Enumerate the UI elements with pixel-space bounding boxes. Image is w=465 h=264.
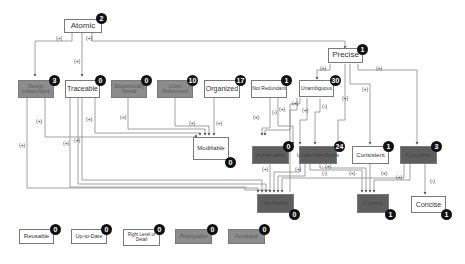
count-badge: 0 <box>207 224 218 235</box>
edge-sign: (+) <box>381 170 387 176</box>
node-label: Concise <box>416 201 441 208</box>
count-badge: 10 <box>187 75 198 86</box>
edge-sign: (+) <box>216 120 222 126</box>
edge-sign: (+) <box>189 120 195 126</box>
node-label: Correct <box>363 200 383 206</box>
count-badge: 24 <box>334 141 345 152</box>
node-label: Prototypable <box>179 234 207 239</box>
node-label: Right Level of Detail <box>124 233 159 242</box>
count-badge: 0 <box>50 224 61 235</box>
node-label: Modifiable <box>197 145 224 151</box>
edge-sign: (+) <box>292 100 298 106</box>
count-badge: 0 <box>154 224 165 235</box>
edge-sign: (-) <box>322 103 327 109</box>
node-label: Consistent <box>356 152 384 158</box>
node-label: Not Redundant <box>252 86 286 91</box>
quality-attribute-diagram: (+) (+) (+) (+) (+) (+) (+) (+) (+) (+) … <box>0 0 465 264</box>
node-label: Unambiguous <box>301 86 332 91</box>
node-understandable[interactable]: Understandable <box>299 146 337 164</box>
count-badge: 17 <box>235 75 246 86</box>
edge-sign: (+) <box>56 35 62 41</box>
node-label: Cross Referenced <box>158 84 192 95</box>
count-badge: 0 <box>225 157 236 168</box>
count-badge: 1 <box>281 75 292 86</box>
count-badge: 0 <box>141 75 152 86</box>
node-verifiable[interactable]: Verifiable <box>257 194 294 213</box>
node-label: Electronically Stored <box>112 84 146 95</box>
count-badge: 1 <box>357 44 368 55</box>
edge-sign: (+) <box>376 65 382 71</box>
edge-sign: (+) <box>349 170 355 176</box>
edge-sign: (+) <box>120 114 126 120</box>
edge-sign: (+) <box>302 107 308 113</box>
node-unambiguous[interactable]: Unambiguous <box>299 80 334 97</box>
node-label: Organized <box>206 85 238 92</box>
edge-sign: (+) <box>362 86 368 92</box>
node-concise[interactable]: Concise <box>411 196 446 213</box>
node-correct[interactable]: Correct <box>357 194 389 213</box>
node-label: Atomic <box>71 22 95 30</box>
edge-sign: (-) <box>430 178 435 184</box>
count-badge: 0 <box>95 75 106 86</box>
count-badge: 0 <box>259 224 270 235</box>
edge-sign: (-) <box>322 170 327 176</box>
count-badge: 1 <box>441 209 452 220</box>
node-reusable[interactable]: Reusable <box>19 229 54 244</box>
edge-sign: (+) <box>74 137 80 143</box>
edge-sign: (+) <box>74 58 80 64</box>
node-label: Up-to-Date <box>76 234 103 240</box>
count-badge: 1 <box>385 209 396 220</box>
edge-sign: (+) <box>342 95 348 101</box>
node-label: Reusable <box>24 233 49 239</box>
node-label: Traceable <box>67 85 98 92</box>
edge-sign: (+) <box>262 166 268 172</box>
node-label: Verifiable <box>263 200 288 206</box>
edge-sign: (+) <box>63 140 69 146</box>
node-label: Annotated <box>235 234 258 239</box>
node-label: Precise <box>332 51 359 59</box>
node-label: Design Independent <box>19 84 53 95</box>
edge-layer <box>0 0 465 264</box>
count-badge: 0 <box>101 224 112 235</box>
edge-sign: (+) <box>253 114 259 120</box>
count-badge: 0 <box>283 141 294 152</box>
edge-sign: (+) <box>36 118 42 124</box>
node-label: Achievable <box>256 152 285 158</box>
count-badge: 0 <box>289 209 300 220</box>
node-label: Complete <box>406 152 432 158</box>
edge-sign: (+) <box>295 166 301 172</box>
count-badge: 30 <box>330 75 341 86</box>
edge-sign: (+) <box>19 142 25 148</box>
edge-sign: (+) <box>86 116 92 122</box>
edge-sign: (+) <box>86 35 92 41</box>
node-label: Understandable <box>297 152 339 158</box>
count-badge: 2 <box>96 13 107 24</box>
edge-sign: (-) <box>272 109 277 115</box>
count-badge: 3 <box>49 75 60 86</box>
edge-sign: (+) <box>320 65 326 71</box>
node-modifiable[interactable]: Modifiable <box>193 137 229 160</box>
edge-sign: (+) <box>279 106 285 112</box>
edge-sign: (+) <box>396 174 402 180</box>
count-badge: 1 <box>383 141 394 152</box>
count-badge: 3 <box>431 141 442 152</box>
